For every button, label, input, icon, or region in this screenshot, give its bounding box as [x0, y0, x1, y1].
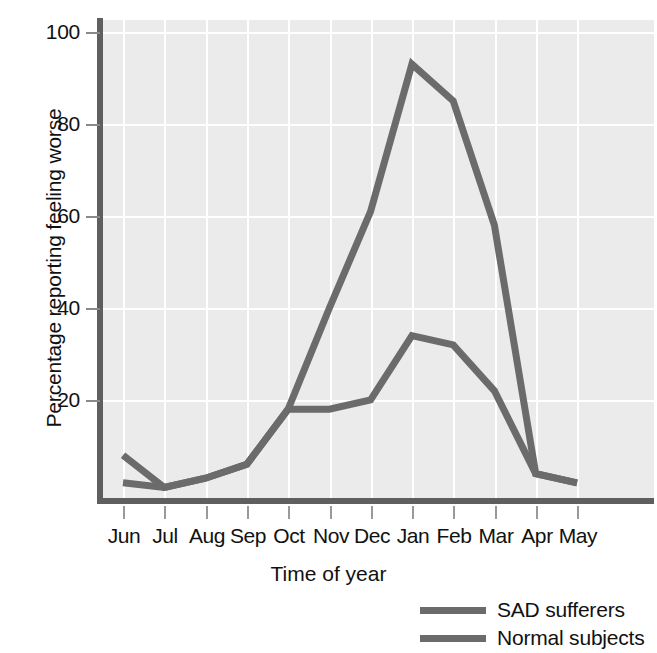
gridline-x-jul [164, 20, 166, 501]
gridline-x-apr [536, 20, 538, 501]
x-tickmark-feb [453, 506, 455, 519]
gridline-x-mar [495, 20, 497, 501]
y-tick-label-40: 40 [26, 296, 80, 320]
y-tickmark-60 [86, 216, 100, 218]
x-tickmark-jan [412, 506, 414, 519]
gridline-x-may [577, 20, 579, 501]
legend-item-sad-sufferers: SAD sufferers [420, 596, 657, 624]
gridline-x-aug [206, 20, 208, 501]
x-tickmark-jun [123, 506, 125, 519]
y-axis-title: Percentage reporting feeling worse [42, 28, 66, 508]
gridline-y-80 [101, 124, 654, 126]
x-tickmark-jul [164, 506, 166, 519]
x-tickmark-dec [371, 506, 373, 519]
x-tickmark-sep [247, 506, 249, 519]
legend-label: Normal subjects [497, 626, 645, 650]
x-tickmark-oct [288, 506, 290, 519]
y-axis-line [97, 18, 103, 504]
legend-swatch-icon [420, 635, 486, 642]
plot-area [101, 20, 654, 501]
x-tickmark-apr [536, 506, 538, 519]
gridline-x-dec [371, 20, 373, 501]
chart-legend: SAD sufferers Normal subjects [420, 596, 657, 652]
y-tick-label-60: 60 [26, 204, 80, 228]
y-tick-label-100: 100 [26, 20, 80, 44]
x-tickmark-nov [330, 506, 332, 519]
x-tickmark-aug [206, 506, 208, 519]
gridline-y-100 [101, 32, 654, 34]
y-tickmark-80 [86, 124, 100, 126]
x-tickmark-mar [495, 506, 497, 519]
gridline-x-feb [453, 20, 455, 501]
y-tickmark-20 [86, 400, 100, 402]
x-axis-title: Time of year [0, 562, 657, 586]
gridline-x-jun [123, 20, 125, 501]
y-tick-label-20: 20 [26, 388, 80, 412]
gridline-x-sep [247, 20, 249, 501]
legend-item-normal-subjects: Normal subjects [420, 624, 657, 652]
gridline-y-40 [101, 308, 654, 310]
legend-swatch-icon [420, 607, 486, 614]
chart-page: Percentage reporting feeling worse 100 8… [0, 0, 657, 653]
y-tickmark-40 [86, 308, 100, 310]
gridline-y-60 [101, 216, 654, 218]
gridline-y-20 [101, 400, 654, 402]
x-tickmark-may [577, 506, 579, 519]
x-tick-label-may: May [548, 524, 608, 548]
gridline-x-jan [412, 20, 414, 501]
gridline-x-oct [288, 20, 290, 501]
x-axis-line [97, 498, 654, 504]
legend-label: SAD sufferers [497, 598, 625, 622]
gridline-x-nov [330, 20, 332, 501]
y-tickmark-100 [86, 32, 100, 34]
y-tick-label-80: 80 [26, 112, 80, 136]
